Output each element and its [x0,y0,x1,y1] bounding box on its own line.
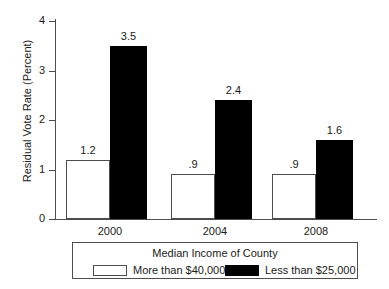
bar [215,100,252,219]
bar-value-label: .9 [173,159,213,170]
x-axis-line [55,219,377,220]
bar-value-label: .9 [274,159,314,170]
legend-label: More than $40,000 [133,265,225,276]
y-axis-tick-mark [49,120,56,121]
y-axis-tick-label: 1 [15,164,45,175]
legend-label: Less than $25,000 [265,265,356,276]
bar [171,174,215,219]
legend: Median Income of County More than $40,00… [72,242,358,279]
bar [272,174,316,219]
bar [66,160,110,219]
legend-entry: Less than $25,000 [225,263,356,277]
y-axis-tick-mark [49,21,56,22]
legend-title: Median Income of County [73,247,357,259]
bar [110,46,147,219]
residual-vote-rate-bar-chart: Residual Vote Rate (Percent) 01234 1.2.9… [0,0,389,289]
bar [316,140,353,219]
x-axis-category-label: 2004 [185,226,245,237]
x-axis-category-label: 2008 [286,226,346,237]
y-axis-tick-label: 3 [15,65,45,76]
bar-value-label: 1.6 [315,125,355,136]
bar-value-label: 2.4 [214,85,254,96]
legend-swatch-light [93,265,127,276]
y-axis-tick-label: 4 [15,15,45,26]
y-axis-tick-mark [49,170,56,171]
y-axis-tick-label: 2 [15,114,45,125]
x-axis-category-label: 2000 [80,226,140,237]
bar-value-label: 3.5 [109,31,149,42]
y-axis-tick-label: 0 [15,213,45,224]
bar-value-label: 1.2 [68,145,108,156]
y-axis-tick-labels: 01234 [14,0,45,289]
legend-swatch-dark [225,265,259,276]
y-axis-tick-mark [49,71,56,72]
legend-entry: More than $40,000 [93,263,225,277]
y-axis-tick-mark [49,219,56,220]
legend-entries: More than $40,000Less than $25,000 [73,263,357,278]
